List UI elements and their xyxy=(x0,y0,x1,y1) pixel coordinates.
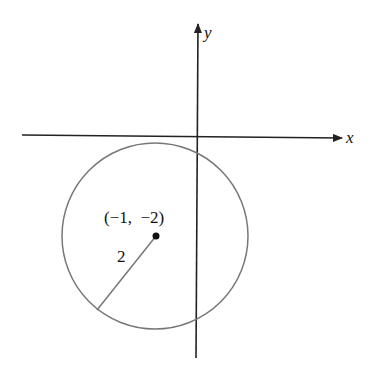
x-axis-label: x xyxy=(345,128,354,147)
radius-label: 2 xyxy=(117,247,126,266)
center-label: (−1, −2) xyxy=(104,208,164,227)
y-axis xyxy=(196,24,198,358)
radius-line xyxy=(97,236,156,310)
diagram-canvas: x y (−1, −2) 2 xyxy=(0,0,380,381)
y-axis-label: y xyxy=(202,23,212,42)
center-point xyxy=(153,233,160,240)
x-axis xyxy=(22,135,342,138)
